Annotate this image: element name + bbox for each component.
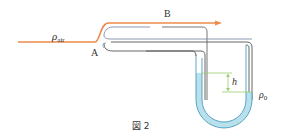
point-a-label: A	[91, 48, 98, 58]
outer-tube-lower-inner	[104, 43, 205, 100]
height-label: h	[232, 77, 237, 87]
air-density-subscript: air	[57, 36, 64, 44]
u-tube-inner-wall	[202, 45, 246, 122]
liquid-density-subscript: 0	[264, 94, 268, 102]
diagram-canvas	[0, 0, 284, 138]
height-arrow-up-icon	[226, 74, 230, 77]
u-tube-left-top	[146, 51, 196, 56]
airflow-arrow-icon	[215, 21, 222, 26]
liquid-density-label: ρ0	[259, 90, 267, 102]
point-b-label: B	[164, 9, 171, 19]
inner-tube-mid	[104, 35, 252, 39]
figure-caption: 図 2	[132, 122, 150, 131]
pitot-tube-diagram: ρair A B h ρ0 図 2	[0, 0, 284, 138]
inner-tube-top	[104, 27, 150, 35]
air-density-label: ρair	[52, 31, 65, 44]
height-arrow-down-icon	[226, 88, 230, 91]
